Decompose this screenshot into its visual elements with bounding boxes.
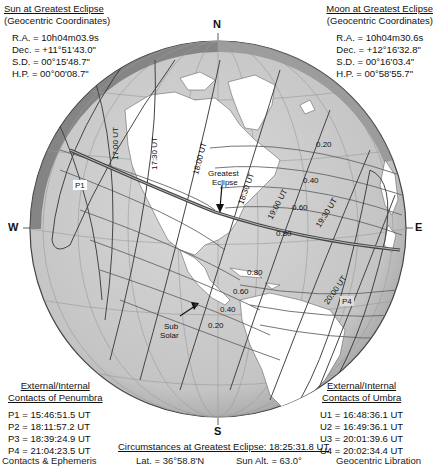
penumbra-contacts-panel: External/Internal Contacts of Penumbra P… (8, 380, 103, 457)
moon-panel-subtitle: (Geocentric Coordinates) (326, 15, 433, 27)
moon-coordinates-panel: Moon at Greatest Eclipse (Geocentric Coo… (326, 3, 433, 80)
svg-text:0.80: 0.80 (276, 229, 292, 238)
svg-text:0.20: 0.20 (316, 140, 332, 149)
contact-p1: P1 = 15:46:51.5 UT (8, 409, 103, 421)
sun-coordinates-panel: Sun at Greatest Eclipse (Geocentric Coor… (4, 3, 110, 80)
moon-panel-title: Moon at Greatest Eclipse (326, 3, 433, 15)
svg-text:17:30 UT: 17:30 UT (150, 137, 159, 170)
compass-west: W (8, 221, 18, 233)
compass-north: N (213, 18, 221, 30)
moon-hp: H.P. = 00°58'55.7" (336, 68, 433, 80)
circumstances-title: Circumstances at Greatest Eclipse: 18:25… (118, 441, 329, 452)
penumbra-title: External/Internal (8, 380, 103, 392)
libration-heading-partial: Geocentric Libration (336, 455, 421, 466)
sun-alt-partial: Sun Alt. = 63.0° (236, 455, 302, 466)
svg-text:0.40: 0.40 (303, 176, 319, 185)
greatest-label-1: Greatest (208, 169, 239, 178)
moon-sd: S.D. = 00°16'03.4" (336, 56, 433, 68)
compass-east: E (415, 221, 422, 233)
sun-panel-title: Sun at Greatest Eclipse (4, 3, 110, 15)
svg-text:0.80: 0.80 (247, 268, 263, 277)
ephemeris-heading-partial: Contacts & Ephemeris (2, 455, 97, 466)
p1-label: P1 (75, 181, 85, 190)
sun-hp: H.P. = 00°00'08.7" (12, 68, 110, 80)
sun-sd: S.D. = 00°15'48.7" (12, 56, 110, 68)
sun-ra: R.A. = 10h04m03.9s (12, 32, 110, 44)
compass-south: S (214, 425, 221, 437)
contact-p3: P3 = 18:39:24.9 UT (8, 433, 103, 445)
penumbra-subtitle: Contacts of Penumbra (8, 392, 103, 404)
svg-text:0.60: 0.60 (292, 203, 308, 212)
svg-text:17:00 UT: 17:00 UT (111, 127, 120, 160)
svg-text:0.40: 0.40 (220, 305, 236, 314)
contact-p2: P2 = 18:11:57.2 UT (8, 421, 103, 433)
umbra-contacts-panel: External/Internal Contacts of Umbra U1 =… (320, 380, 403, 457)
svg-text:0.20: 0.20 (208, 321, 224, 330)
contact-u2: U2 = 16:49:36.1 UT (320, 421, 403, 433)
umbra-subtitle: Contacts of Umbra (320, 392, 403, 404)
sun-dec: Dec. = +11°51'43.0" (12, 44, 110, 56)
sun-panel-subtitle: (Geocentric Coordinates) (4, 15, 110, 27)
svg-text:0.60: 0.60 (233, 287, 249, 296)
sub-solar-label-1: Sub (164, 322, 179, 331)
p4-label: P4 (342, 297, 352, 306)
moon-dec: Dec. = +12°16'32.8" (336, 44, 433, 56)
greatest-label-2: Eclipse (212, 178, 238, 187)
sub-solar-label-2: Solar (160, 331, 179, 340)
umbra-title: External/Internal (320, 380, 403, 392)
contact-u1: U1 = 16:48:36.1 UT (320, 409, 403, 421)
greatest-lat-partial: Lat. = 36°58.8'N (136, 455, 204, 466)
moon-ra: R.A. = 10h04m30.6s (336, 32, 433, 44)
contact-u3: U3 = 20:01:39.6 UT (320, 433, 403, 445)
